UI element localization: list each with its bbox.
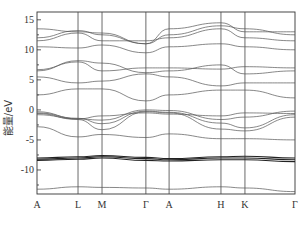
x-tick-label: K [241,199,249,210]
x-tick-label: Γ [292,199,298,210]
band-line [37,26,295,44]
x-tick-label: A [165,199,173,210]
band-line [37,127,295,140]
band-line [37,62,295,71]
band-structure-chart: 151050-5-10 ALMΓAHKΓ 能量/eV [0,0,302,227]
band-line [37,89,295,101]
x-tick-label: M [98,199,107,210]
plot-frame [37,12,295,194]
x-axis-labels: ALMΓAHKΓ [33,199,298,210]
y-axis-label: 能量/eV [2,100,14,137]
x-tick-label: Γ [143,199,149,210]
band-line [37,187,295,192]
band-line [37,74,295,86]
y-tick-label: -10 [21,164,34,175]
x-tick-label: L [75,199,81,210]
band-line [37,61,295,74]
y-tick-label: 5 [29,74,34,85]
y-tick-label: -5 [26,134,34,145]
y-tick-label: 10 [24,44,34,55]
band-line [37,112,295,131]
x-tick-label: A [33,199,41,210]
symmetry-lines [78,12,245,194]
energy-bands [37,23,295,192]
x-tick-label: H [217,199,224,210]
y-tick-label: 15 [24,14,34,25]
y-tick-label: 0 [29,104,34,115]
band-line [37,44,295,53]
